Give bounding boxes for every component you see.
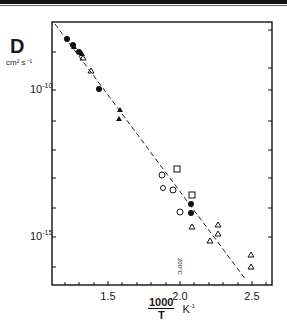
x-unit-exponent: -1 [190,303,195,309]
y-tick-exponent: -15 [42,229,52,236]
x-tick-label-1: 1.5 [100,290,115,302]
x-axis-fraction: 1000 T [148,296,174,321]
y-axis-label: D [10,35,24,58]
temperature-annotation: 200°C [177,258,183,275]
y-tick-label-lower: 10-15 [30,229,52,242]
fit-line [55,24,246,280]
series-open-triangles [80,55,254,269]
y-tick-base: 10 [30,230,42,242]
series-open-squares [174,166,195,198]
x-tick-label-3: 2.5 [244,290,259,302]
y-tick-base: 10 [30,83,42,95]
series-filled-triangles [71,44,123,121]
x-unit-base: K [182,303,189,315]
plot-frame [52,22,272,285]
chart-plot-area [0,0,287,336]
x-axis-label: 1000 T K-1 [148,296,195,321]
y-tick-exponent: -10 [42,82,52,89]
x-axis-numerator: 1000 [148,296,174,309]
x-axis-denominator: T [158,309,165,321]
y-axis-ticks [52,30,272,267]
x-axis-units: K-1 [182,303,195,315]
y-tick-label-upper: 10-10 [30,82,52,95]
y-axis-units: cm² s⁻¹ [6,58,32,67]
series-open-circles [159,172,183,215]
